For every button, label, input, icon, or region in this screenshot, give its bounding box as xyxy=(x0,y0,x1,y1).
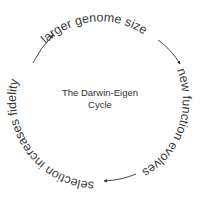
darwin-eigen-cycle-diagram: larger genome size new function evolves … xyxy=(0,0,202,224)
arrow-to-new-function-icon xyxy=(158,40,180,64)
arrow-to-selection-icon xyxy=(104,174,136,181)
diagram-title-line-1: The Darwin-Eigen xyxy=(62,87,138,98)
stage-label-genome-size: larger genome size xyxy=(38,10,150,46)
stage-label-new-function: new function evolves xyxy=(140,66,194,180)
diagram-title-line-2: Cycle xyxy=(88,99,112,110)
